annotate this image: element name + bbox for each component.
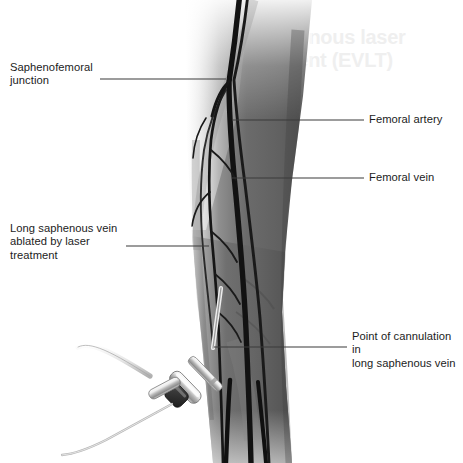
illustration-canvas: Endovenous laser treatment (EVLT) — [0, 0, 463, 463]
laser-fibre-lead-highlight — [62, 404, 172, 455]
label-femoral-artery: Femoral artery — [369, 113, 442, 126]
label-point-of-cannulation: Point of cannulation in long saphenous v… — [352, 330, 463, 370]
catheter-tube-upper — [78, 345, 150, 376]
label-long-saphenous-vein: Long saphenous vein ablated by laser tre… — [10, 222, 117, 262]
label-saphenofemoral-junction: Saphenofemoral junction — [10, 61, 93, 88]
lateral-shadow — [288, 30, 298, 463]
label-femoral-vein: Femoral vein — [369, 171, 434, 184]
laser-fibre-lead — [62, 404, 172, 455]
